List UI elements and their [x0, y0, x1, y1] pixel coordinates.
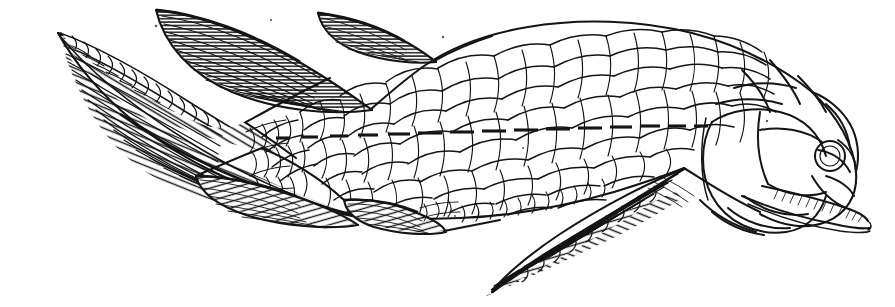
fish-engraving-figure [0, 0, 895, 307]
fish-illustration [0, 0, 895, 307]
